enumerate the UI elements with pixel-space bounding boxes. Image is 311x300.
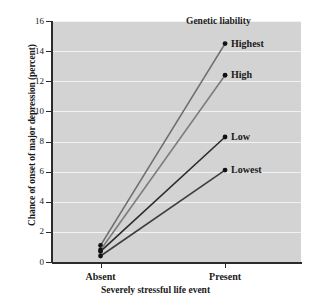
y-tick-mark [46,142,51,143]
y-tick-mark [46,232,51,233]
series-line-lowest [101,170,225,256]
y-tick-label: 2 [20,227,44,236]
y-tick-mark [46,111,51,112]
x-tick-mark [225,263,226,268]
y-tick-label: 6 [20,167,44,176]
x-axis-line [52,262,302,264]
series-label-high: High [231,69,252,80]
legend-title: Genetic liability [186,16,251,26]
y-tick-label: 10 [20,107,44,116]
x-tick-label-present: Present [190,271,260,282]
x-axis-title: Severely stressful life event [0,285,311,295]
y-tick-label: 14 [20,47,44,56]
series-label-lowest: Lowest [231,164,262,175]
y-tick-label: 16 [20,17,44,26]
y-tick-mark [46,262,51,263]
y-tick-mark [46,202,51,203]
y-tick-label: 4 [20,197,44,206]
series-line-high [101,75,225,250]
y-tick-label: 0 [20,258,44,267]
data-point-low-present [223,135,228,140]
data-point-high-present [223,73,228,78]
x-tick-mark [101,263,102,268]
data-point-low-absent [98,249,103,254]
series-label-highest: Highest [231,38,264,49]
data-point-lowest-present [223,168,228,173]
data-point-lowest-absent [98,254,103,259]
y-tick-mark [46,21,51,22]
plot-area [52,21,301,262]
y-tick-label: 12 [20,77,44,86]
x-tick-label-absent: Absent [66,271,136,282]
y-axis-line [51,21,53,263]
series-label-low: Low [231,131,250,142]
data-series-layer [52,21,301,262]
y-tick-mark [46,81,51,82]
y-tick-label: 8 [20,137,44,146]
y-tick-mark [46,51,51,52]
data-point-highest-present [223,41,228,46]
series-line-low [101,137,225,251]
series-line-highest [101,44,225,246]
y-tick-mark [46,172,51,173]
chart-container: Chance of onset of major depression (per… [0,0,311,300]
